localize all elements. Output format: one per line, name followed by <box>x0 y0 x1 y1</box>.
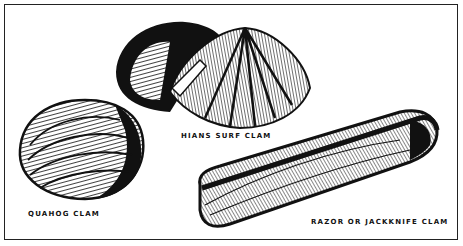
surf-clam-drawing <box>116 22 310 128</box>
surf-clam-label: HIANS SURF CLAM <box>181 132 272 140</box>
quahog-label: QUAHOG CLAM <box>28 210 100 218</box>
razor-clam-label: RAZOR OR JACKKNIFE CLAM <box>311 218 449 226</box>
quahog-drawing <box>20 100 143 199</box>
